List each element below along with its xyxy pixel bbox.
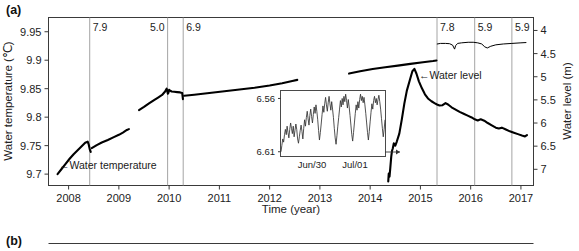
y-axis-left-title: Water temperature (℃) [2, 41, 14, 160]
panel-b-label: (b) [6, 234, 22, 248]
x-tick-label: 2011 [208, 192, 232, 204]
y-right-tick-label: 5.5 [541, 94, 556, 106]
event-value-label: 7.9 [93, 21, 108, 33]
y-left-tick-label: 9.85 [20, 83, 41, 95]
y-axis-right-title: Water level (m) [561, 62, 573, 140]
inset-x-tick-label: Jul/01 [342, 159, 367, 170]
figure-panel-a-and-b: (a) 7.95.06.97.85.95.9 20082009201020112… [0, 0, 579, 251]
x-tick-label: 2010 [157, 192, 181, 204]
water-level-series-label: ←Water level [419, 69, 482, 81]
event-value-label: 5.9 [515, 21, 530, 33]
y-right-tick-label: 4.5 [541, 48, 556, 60]
inset-y-tick-label: 6.61 [257, 146, 276, 157]
y-left-tick-label: 9.95 [20, 26, 41, 38]
y-right-tick-label: 6 [541, 117, 547, 129]
y-right-tick-label: 4 [541, 24, 547, 36]
x-tick-label: 2015 [408, 192, 432, 204]
panel-a-label: (a) [6, 3, 21, 17]
y-left-tick-label: 9.7 [26, 168, 41, 180]
inset-y-tick-label: 6.56 [257, 93, 276, 104]
x-tick-label: 2013 [308, 192, 332, 204]
event-value-label: 5.0 [150, 21, 165, 33]
y-right-tick-label: 5 [541, 71, 547, 83]
event-value-label: 6.9 [186, 21, 201, 33]
y-left-tick-label: 9.75 [20, 140, 41, 152]
water-temperature-series-label: ←Water temperature [59, 159, 157, 171]
x-tick-label: 2012 [257, 192, 281, 204]
x-tick-label: 2008 [56, 192, 80, 204]
y-left-tick-label: 9.9 [26, 54, 41, 66]
x-tick-label: 2017 [509, 192, 533, 204]
x-axis-title: Time (year) [262, 203, 321, 215]
x-tick-label: 2009 [107, 192, 131, 204]
x-tick-label: 2016 [458, 192, 482, 204]
event-value-label: 7.8 [440, 21, 455, 33]
y-left-tick-label: 9.8 [26, 111, 41, 123]
inset-x-tick-label: Jun/30 [298, 159, 327, 170]
event-value-label: 5.9 [478, 21, 493, 33]
x-tick-label: 2014 [358, 192, 382, 204]
y-right-tick-label: 7 [541, 163, 547, 175]
y-right-tick-label: 6.5 [541, 140, 556, 152]
